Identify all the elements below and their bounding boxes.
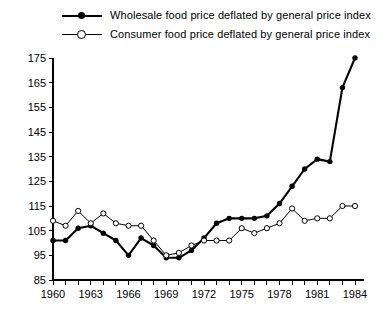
data-point-wholesale xyxy=(340,85,345,90)
plot-area: 8595105115125135145155165175 19601963196… xyxy=(0,0,381,310)
data-point-consumer xyxy=(126,223,131,228)
data-point-consumer xyxy=(88,221,93,226)
x-axis: 196019631966196919721975197819811984 xyxy=(41,280,367,300)
data-point-wholesale xyxy=(50,238,55,243)
data-point-consumer xyxy=(138,223,143,228)
data-point-wholesale xyxy=(315,156,320,161)
data-point-wholesale xyxy=(264,213,269,218)
data-point-consumer xyxy=(50,218,55,223)
data-point-wholesale xyxy=(113,238,118,243)
data-point-wholesale xyxy=(214,221,219,226)
data-point-wholesale xyxy=(302,166,307,171)
data-point-wholesale xyxy=(101,230,106,235)
data-point-consumer xyxy=(176,250,181,255)
data-point-consumer xyxy=(214,238,219,243)
data-point-consumer xyxy=(327,216,332,221)
data-point-consumer xyxy=(352,203,357,208)
data-point-wholesale xyxy=(75,226,80,231)
data-point-wholesale xyxy=(277,201,282,206)
y-axis: 8595105115125135145155165175 xyxy=(28,52,53,286)
data-point-consumer xyxy=(76,208,81,213)
data-point-wholesale xyxy=(138,235,143,240)
data-point-wholesale xyxy=(327,159,332,164)
data-point-consumer xyxy=(264,226,269,231)
data-point-consumer xyxy=(340,203,345,208)
data-point-consumer xyxy=(239,226,244,231)
data-point-consumer xyxy=(227,238,232,243)
y-tick-label: 105 xyxy=(28,225,46,237)
y-tick-label: 125 xyxy=(28,175,46,187)
data-point-consumer xyxy=(315,216,320,221)
data-point-consumer xyxy=(189,243,194,248)
data-point-wholesale xyxy=(226,216,231,221)
data-point-consumer xyxy=(151,238,156,243)
y-tick-label: 165 xyxy=(28,77,46,89)
data-point-consumer xyxy=(252,231,257,236)
data-point-wholesale xyxy=(252,216,257,221)
y-tick-label: 95 xyxy=(34,249,46,261)
x-tick-label: 1981 xyxy=(305,288,329,300)
data-point-consumer xyxy=(201,238,206,243)
y-tick-label: 115 xyxy=(28,200,46,212)
y-tick-label: 155 xyxy=(28,101,46,113)
data-point-consumer xyxy=(101,211,106,216)
data-series-group xyxy=(50,55,357,260)
data-point-wholesale xyxy=(289,184,294,189)
data-point-wholesale xyxy=(239,216,244,221)
chart-figure: Wholesale food price deflated by general… xyxy=(0,0,381,310)
x-tick-label: 1960 xyxy=(41,288,65,300)
data-point-wholesale xyxy=(63,238,68,243)
chart-canvas: 8595105115125135145155165175 19601963196… xyxy=(0,0,381,310)
data-point-wholesale xyxy=(126,253,131,258)
x-tick-label: 1984 xyxy=(343,288,367,300)
data-point-consumer xyxy=(277,221,282,226)
x-tick-label: 1975 xyxy=(230,288,254,300)
data-point-consumer xyxy=(289,206,294,211)
data-point-consumer xyxy=(164,253,169,258)
y-tick-label: 175 xyxy=(28,52,46,64)
x-tick-label: 1969 xyxy=(154,288,178,300)
y-tick-label: 85 xyxy=(34,274,46,286)
x-tick-label: 1963 xyxy=(79,288,103,300)
x-tick-label: 1972 xyxy=(192,288,216,300)
x-tick-label: 1978 xyxy=(267,288,291,300)
y-tick-label: 135 xyxy=(28,151,46,163)
data-point-consumer xyxy=(113,221,118,226)
series-line-wholesale xyxy=(53,58,355,258)
data-point-consumer xyxy=(302,218,307,223)
x-tick-label: 1966 xyxy=(116,288,140,300)
data-point-wholesale xyxy=(352,55,357,60)
y-tick-label: 145 xyxy=(28,126,46,138)
data-point-consumer xyxy=(63,223,68,228)
